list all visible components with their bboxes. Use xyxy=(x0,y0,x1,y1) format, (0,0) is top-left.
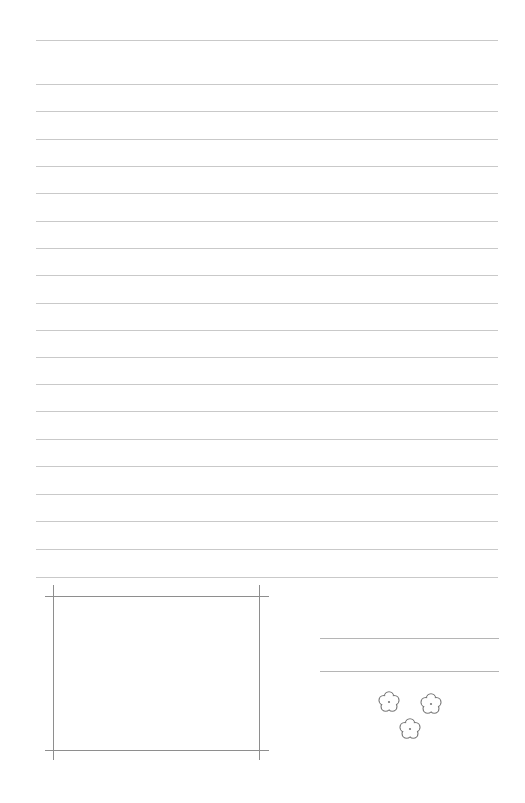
ruled-line xyxy=(36,221,498,222)
frame-right-line xyxy=(259,585,260,760)
frame-left-line xyxy=(53,585,54,760)
ruled-line xyxy=(36,303,498,304)
ruled-line xyxy=(36,439,498,440)
ruled-line xyxy=(36,549,498,550)
ruled-line xyxy=(36,494,498,495)
ruled-line xyxy=(36,166,498,167)
ruled-line xyxy=(36,521,498,522)
flower-icon xyxy=(419,692,443,716)
signature-line xyxy=(320,671,499,672)
ruled-line xyxy=(36,248,498,249)
ruled-line xyxy=(36,193,498,194)
ruled-line xyxy=(36,384,498,385)
ruled-line xyxy=(36,139,498,140)
ruled-line xyxy=(36,275,498,276)
flower-icon xyxy=(398,717,422,741)
ruled-line xyxy=(36,466,498,467)
frame-bottom-line xyxy=(45,750,269,751)
ruled-line xyxy=(36,330,498,331)
lined-paper-page xyxy=(0,0,525,803)
ruled-line xyxy=(36,357,498,358)
frame-top-line xyxy=(45,596,269,597)
ruled-line xyxy=(36,111,498,112)
flower-icon xyxy=(377,690,401,714)
ruled-line xyxy=(36,411,498,412)
ruled-line xyxy=(36,40,498,41)
ruled-line xyxy=(36,84,498,85)
ruled-line xyxy=(36,577,498,578)
signature-line xyxy=(320,638,499,639)
